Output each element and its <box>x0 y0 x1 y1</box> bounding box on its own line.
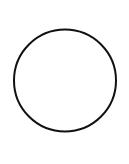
circle-outline-icon <box>14 30 116 132</box>
canvas <box>0 0 129 164</box>
